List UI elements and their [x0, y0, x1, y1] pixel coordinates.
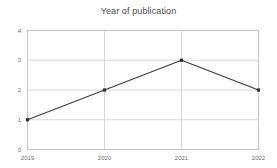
x-axis-tick-label: 2021: [165, 155, 199, 161]
data-point-marker: [180, 59, 183, 62]
y-axis-tick-label: 1: [7, 117, 21, 123]
data-point-marker: [26, 118, 29, 121]
data-point-marker: [103, 88, 106, 91]
y-axis-tick-label: 4: [7, 28, 21, 34]
data-point-marker: [257, 88, 260, 91]
x-axis-tick-label: 2019: [11, 155, 45, 161]
y-axis-tick-label: 3: [7, 57, 21, 63]
y-axis-tick-label: 0: [7, 147, 21, 153]
y-axis-tick-label: 2: [7, 87, 21, 93]
line-chart: Year of publication 01234 20192020202120…: [0, 0, 277, 168]
x-axis-tick-label: 2020: [88, 155, 122, 161]
gridlines: [28, 31, 259, 150]
plot-area: [0, 0, 277, 168]
x-axis-tick-label: 2022: [242, 155, 276, 161]
